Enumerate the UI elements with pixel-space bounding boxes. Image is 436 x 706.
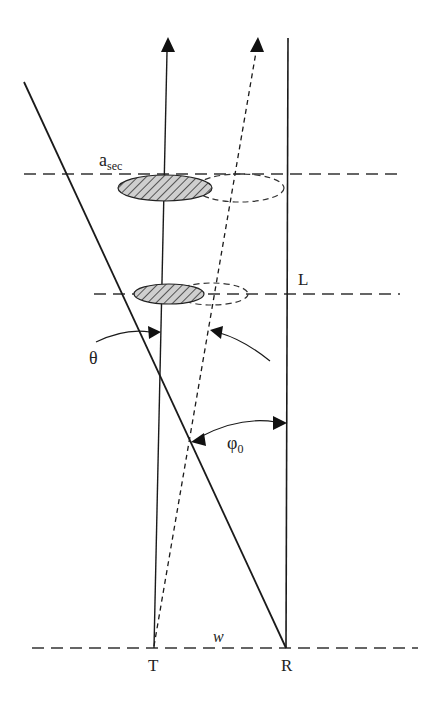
label-R: R <box>281 656 293 675</box>
label-w: w <box>213 628 224 645</box>
hatched-ellipse-upper <box>118 175 212 201</box>
arrowhead-icon <box>191 433 206 446</box>
label-phi0: φ0 <box>227 433 243 456</box>
arrowhead-icon <box>250 37 264 52</box>
label-a-sec: asec <box>99 150 122 173</box>
geometry-diagram: asec L θ φ0 w T R <box>0 0 436 706</box>
arrowhead-icon <box>148 326 161 339</box>
phi0-angle-arc <box>200 421 276 437</box>
arrowhead-icon <box>161 37 175 52</box>
arrowhead-icon <box>273 416 287 430</box>
receiver-vertical-line <box>286 38 288 648</box>
hatched-ellipse-middle <box>134 284 204 304</box>
label-L: L <box>298 270 308 289</box>
transmitter-vertical-ray <box>154 52 167 648</box>
dashed-ray-angle-arc <box>220 333 270 361</box>
label-T: T <box>148 656 159 675</box>
arrowhead-icon <box>210 326 223 339</box>
diagonal-line <box>24 82 286 648</box>
label-theta: θ <box>89 348 98 368</box>
transmitter-dashed-ray <box>154 52 256 646</box>
